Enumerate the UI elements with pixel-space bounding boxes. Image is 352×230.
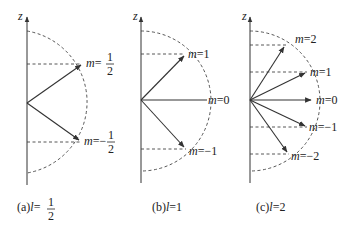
state-label: m=1 <box>310 65 331 79</box>
state-label: m=− <box>84 134 106 148</box>
vector-arrow <box>250 100 305 126</box>
state-label: m=−2 <box>291 149 319 163</box>
panel-c: z m=2 m=1 m=0 m=−1 m=−2 (c)l=2 <box>241 9 337 214</box>
fraction-den: 2 <box>48 209 54 223</box>
vector-arrow <box>27 65 81 103</box>
z-axis-label: z <box>132 9 138 23</box>
fraction-num: 1 <box>48 195 54 209</box>
angular-momentum-diagram: z m= 1 2 m=− 1 2 (a)l= 1 2 z m=1 m=0 m=−… <box>0 0 352 230</box>
state-label: m=1 <box>188 47 209 61</box>
vector-arrow <box>141 56 184 100</box>
fraction-den: 2 <box>107 64 113 78</box>
caption: (c)l=2 <box>256 200 285 214</box>
state-label: m= <box>86 56 102 70</box>
panel-b: z m=1 m=0 m=−1 (b)l=1 <box>132 9 229 214</box>
caption: (b)l=1 <box>152 200 182 214</box>
vector-arrow <box>27 103 79 140</box>
state-label: m=−1 <box>189 144 217 158</box>
fraction-den: 2 <box>108 142 114 156</box>
state-label: m=0 <box>316 93 337 107</box>
z-axis-label: z <box>17 9 23 23</box>
vector-arrow <box>141 100 184 147</box>
z-axis-label: z <box>241 9 247 23</box>
state-label: m=−1 <box>309 120 337 134</box>
fraction-num: 1 <box>108 128 114 142</box>
state-label: m=2 <box>295 32 316 46</box>
fraction-num: 1 <box>107 50 113 64</box>
caption: (a)l= <box>17 200 41 214</box>
state-label: m=0 <box>208 93 229 107</box>
vector-arrow <box>250 100 287 152</box>
arc <box>27 31 87 173</box>
panel-a: z m= 1 2 m=− 1 2 (a)l= 1 2 <box>17 9 115 223</box>
